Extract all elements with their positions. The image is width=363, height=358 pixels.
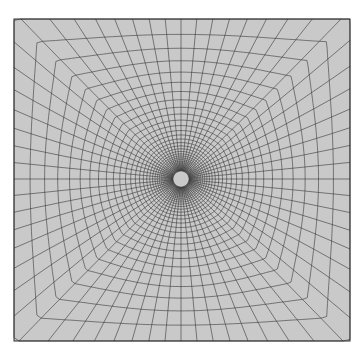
mesh-domain-fill xyxy=(14,19,350,341)
mesh-diagram xyxy=(0,0,363,358)
